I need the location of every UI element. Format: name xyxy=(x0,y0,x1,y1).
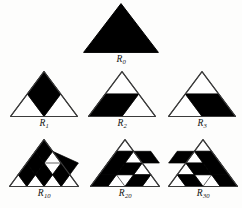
label-base-R2: R xyxy=(117,118,123,128)
label-base-R0: R xyxy=(116,54,122,64)
label-sub-R0: 0 xyxy=(123,58,126,65)
triangle-diagram-R30 xyxy=(167,138,239,188)
label-sub-R1: 1 xyxy=(46,122,49,129)
triangle-diagram-R20 xyxy=(89,138,161,188)
label-base-R20: R xyxy=(119,188,125,198)
label-sub-R30: 30 xyxy=(203,192,209,199)
label-sub-R3: 3 xyxy=(204,122,207,129)
figure-label-R10: R10 xyxy=(8,189,80,199)
triangle-diagram-R3 xyxy=(167,70,237,118)
figure-root: R0 R1 R2 R3 R10 R20 R30 xyxy=(0,0,242,208)
label-sub-R10: 10 xyxy=(44,192,50,199)
figure-label-R3: R3 xyxy=(167,119,237,129)
figure-cell-R30: R30 xyxy=(167,138,239,204)
triangle-diagram-R0 xyxy=(82,2,160,54)
label-base-R3: R xyxy=(197,118,203,128)
figure-label-R20: R20 xyxy=(89,189,161,199)
triangle-diagram-R1 xyxy=(9,70,79,118)
figure-label-R2: R2 xyxy=(87,119,157,129)
figure-cell-R10: R10 xyxy=(8,138,80,204)
label-sub-R20: 20 xyxy=(125,192,131,199)
label-sub-R2: 2 xyxy=(124,122,127,129)
label-base-R1: R xyxy=(39,118,45,128)
figure-label-R1: R1 xyxy=(9,119,79,129)
label-base-R30: R xyxy=(197,188,203,198)
label-base-R10: R xyxy=(38,188,44,198)
figure-label-R30: R30 xyxy=(167,189,239,199)
triangle-diagram-R2 xyxy=(87,70,157,118)
figure-label-R0: R0 xyxy=(82,55,160,65)
figure-cell-R0: R0 xyxy=(82,2,160,68)
figure-cell-R2: R2 xyxy=(87,70,157,132)
figure-cell-R3: R3 xyxy=(167,70,237,132)
figure-cell-R1: R1 xyxy=(9,70,79,132)
triangle-diagram-R10 xyxy=(8,138,80,188)
figure-cell-R20: R20 xyxy=(89,138,161,204)
